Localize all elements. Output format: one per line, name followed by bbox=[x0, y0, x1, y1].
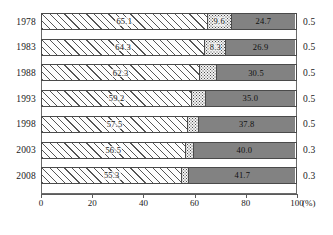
bar-segment-value: 62.3 bbox=[112, 69, 130, 78]
x-axis-line bbox=[41, 194, 297, 195]
bar-segment-value: 59.2 bbox=[108, 94, 126, 103]
bar-segment-value: 26.9 bbox=[253, 43, 269, 52]
x-axis-tick-label: 40 bbox=[139, 199, 148, 208]
bar-segment-dotted bbox=[186, 143, 194, 158]
row-remainder-value: 0.5 bbox=[303, 43, 331, 53]
bar-segment-value: 57.5 bbox=[106, 120, 124, 129]
bar-segment-solid: 30.5 bbox=[217, 65, 294, 80]
bar-segment-dotted bbox=[200, 65, 217, 80]
year-label: 1983 bbox=[0, 43, 36, 53]
bar-segment-hatched: 55.3 bbox=[42, 168, 182, 183]
bar-segment-dotted: 9.6 bbox=[208, 14, 232, 29]
bar-segment-value: 8.3 bbox=[209, 43, 221, 52]
bar-segment-remainder bbox=[295, 168, 296, 183]
bar-segment-solid: 37.8 bbox=[199, 117, 295, 132]
bar-segment-value: 41.7 bbox=[234, 171, 250, 180]
bar-segment-remainder bbox=[295, 65, 296, 80]
bar-segment-solid: 26.9 bbox=[226, 40, 294, 55]
x-axis-unit-label: (%) bbox=[302, 199, 316, 208]
bar-segment-solid: 40.0 bbox=[194, 143, 296, 158]
x-axis-tick-label: 0 bbox=[39, 199, 44, 208]
x-axis-tick-label: 20 bbox=[88, 199, 97, 208]
year-label: 1993 bbox=[0, 95, 36, 105]
row-remainder-value: 0.5 bbox=[303, 120, 331, 130]
bar-segment-dotted bbox=[192, 91, 205, 106]
bar-segment-value: 56.5 bbox=[104, 146, 122, 155]
bar-segment-solid: 41.7 bbox=[189, 168, 295, 183]
x-axis-tick-label: 80 bbox=[241, 199, 250, 208]
row-remainder-value: 0.3 bbox=[303, 172, 331, 182]
table-row: 65.19.624.7 bbox=[41, 13, 297, 30]
bar-rows-container: 65.19.624.764.38.326.962.330.559.235.057… bbox=[41, 13, 297, 194]
row-remainder-value: 0.5 bbox=[303, 69, 331, 79]
bar-segment-hatched: 62.3 bbox=[42, 65, 200, 80]
bar-segment-remainder bbox=[295, 143, 296, 158]
bar-segment-remainder bbox=[295, 117, 296, 132]
bar-segment-value: 64.3 bbox=[114, 43, 132, 52]
bar-segment-value: 65.1 bbox=[115, 17, 133, 26]
bar-segment-value: 40.0 bbox=[237, 146, 253, 155]
table-row: 57.537.8 bbox=[41, 116, 297, 133]
year-label: 2008 bbox=[0, 172, 36, 182]
table-row: 55.341.7 bbox=[41, 167, 297, 184]
table-row: 59.235.0 bbox=[41, 90, 297, 107]
bar-segment-remainder bbox=[295, 91, 296, 106]
row-remainder-value: 0.3 bbox=[303, 146, 331, 156]
year-label: 1978 bbox=[0, 18, 36, 28]
bar-segment-dotted bbox=[188, 117, 199, 132]
bar-segment-value: 35.0 bbox=[242, 94, 258, 103]
bar-segment-value: 30.5 bbox=[248, 69, 264, 78]
row-remainder-value: 0.5 bbox=[303, 18, 331, 28]
bar-segment-value: 9.6 bbox=[213, 17, 225, 26]
bar-segment-remainder bbox=[295, 14, 296, 29]
stacked-bar-chart: 65.19.624.764.38.326.962.330.559.235.057… bbox=[0, 0, 333, 235]
bar-segment-dotted bbox=[182, 168, 189, 183]
bar-segment-dotted: 8.3 bbox=[205, 40, 226, 55]
bar-segment-remainder bbox=[295, 40, 296, 55]
bar-segment-hatched: 57.5 bbox=[42, 117, 188, 132]
bar-segment-solid: 24.7 bbox=[232, 14, 295, 29]
bar-segment-value: 37.8 bbox=[239, 120, 255, 129]
table-row: 56.540.0 bbox=[41, 142, 297, 159]
table-row: 62.330.5 bbox=[41, 64, 297, 81]
bar-segment-solid: 35.0 bbox=[206, 91, 295, 106]
table-row: 64.38.326.9 bbox=[41, 39, 297, 56]
bar-segment-hatched: 59.2 bbox=[42, 91, 192, 106]
bar-segment-hatched: 56.5 bbox=[42, 143, 186, 158]
bar-segment-value: 55.3 bbox=[103, 171, 121, 180]
year-label: 1998 bbox=[0, 120, 36, 130]
bar-segment-hatched: 64.3 bbox=[42, 40, 205, 55]
row-remainder-value: 0.5 bbox=[303, 95, 331, 105]
bar-segment-hatched: 65.1 bbox=[42, 14, 208, 29]
year-label: 2003 bbox=[0, 146, 36, 156]
bar-segment-value: 24.7 bbox=[255, 17, 271, 26]
year-label: 1988 bbox=[0, 69, 36, 79]
x-axis-tick-label: 60 bbox=[190, 199, 199, 208]
